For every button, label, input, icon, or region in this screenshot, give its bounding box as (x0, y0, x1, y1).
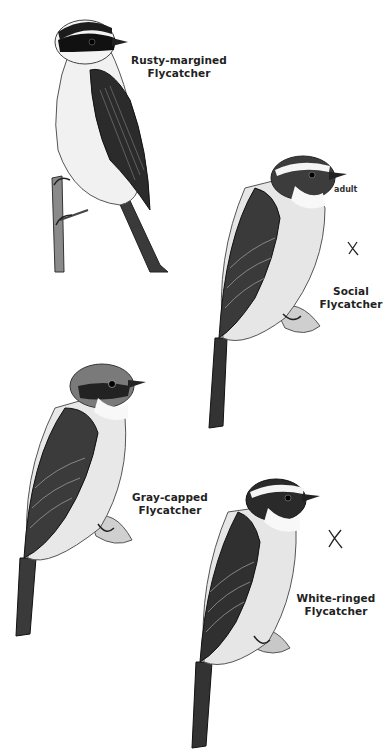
label-white-ringed-flycatcher: White-ringed Flycatcher (288, 592, 384, 618)
label-rusty-margined-flycatcher: Rusty-margined Flycatcher (124, 54, 234, 80)
label-line-family: Flycatcher (288, 605, 384, 618)
label-line-species: White-ringed (288, 592, 384, 605)
x-mark-social-flycatcher (346, 240, 360, 256)
label-line-family: Flycatcher (124, 67, 234, 80)
label-line-species: Social (316, 285, 386, 298)
note-adult: adult (334, 185, 357, 194)
label-line-family: Flycatcher (316, 298, 386, 311)
x-mark-white-ringed-flycatcher (326, 528, 344, 550)
label-line-species: Rusty-margined (124, 54, 234, 67)
label-social-flycatcher: Social Flycatcher (316, 285, 386, 311)
rusty-margined-flycatcher-illustration (30, 10, 180, 280)
